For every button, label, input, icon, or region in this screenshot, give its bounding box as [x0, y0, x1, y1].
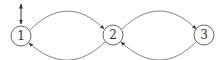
state-diagram: 1 2 3	[0, 0, 223, 60]
state-node-1: 1	[11, 26, 31, 46]
state-node-label: 3	[200, 28, 208, 42]
state-node-2: 2	[103, 25, 123, 45]
edge-1-to-2	[30, 11, 104, 30]
edge-3-to-2	[121, 42, 196, 60]
edge-2-to-1	[29, 42, 105, 60]
edge-2-to-3	[122, 11, 196, 29]
state-node-label: 1	[17, 29, 25, 43]
state-node-label: 2	[109, 28, 117, 42]
state-node-3: 3	[194, 25, 214, 45]
